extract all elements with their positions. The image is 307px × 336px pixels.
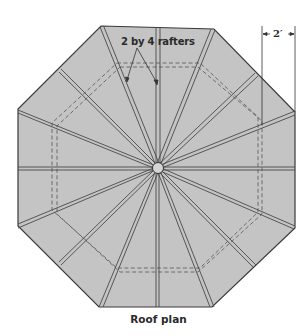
overhang-dimension-label: 2′ bbox=[273, 28, 283, 39]
diagram-caption: Roof plan bbox=[0, 313, 307, 325]
center-hub bbox=[153, 163, 164, 174]
roof-plan-diagram bbox=[0, 0, 307, 336]
rafter-label: 2 by 4 rafters bbox=[121, 36, 195, 47]
